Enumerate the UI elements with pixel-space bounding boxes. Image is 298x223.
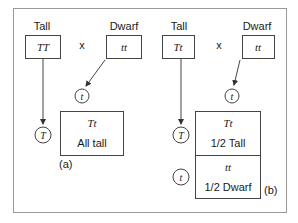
parent2-genotype: tt (121, 41, 128, 53)
arrow-parent2-to-gamete (86, 60, 105, 86)
offspring-2-genotype: tt (225, 161, 232, 173)
arrow-parent2-to-gamete (234, 60, 240, 85)
offspring-2-phenotype: 1/2 Dwarf (204, 181, 252, 193)
offspring-genotype: Tt (87, 117, 97, 129)
panel-b-label: (b) (264, 184, 277, 196)
panel-a-label: (a) (59, 158, 72, 170)
offspring-1-phenotype: 1/2 Tall (211, 137, 246, 149)
gamete-t2-label: t (180, 172, 183, 183)
cross-symbol: x (79, 39, 85, 51)
parent1-genotype: TT (37, 41, 50, 53)
offspring-1-genotype: Tt (223, 117, 233, 129)
gamete-t-label: t (81, 91, 84, 102)
gamete-t-label: t (231, 91, 234, 102)
cross-symbol: x (216, 39, 222, 51)
parent1-label: Tall (171, 20, 188, 32)
parent2-label: Dwarf (110, 20, 140, 32)
parent1-label: Tall (34, 20, 51, 32)
parent2-label: Dwarf (243, 20, 273, 32)
parent1-genotype: Tt (173, 41, 183, 53)
monohybrid-cross-diagram: Tall TT x Dwarf tt t T Tt All tall (a) T… (0, 0, 298, 223)
panel-b: Tall Tt x Dwarf tt t T t Tt 1/2 Tall tt … (163, 20, 278, 199)
panel-a: Tall TT x Dwarf tt t T Tt All tall (a) (26, 20, 142, 170)
offspring-phenotype: All tall (77, 137, 106, 149)
parent2-genotype: tt (255, 41, 262, 53)
